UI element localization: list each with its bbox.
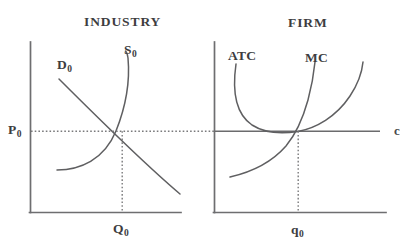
demand-curve-label-subscript: 0 xyxy=(67,64,72,74)
industry-quantity-label: Q0 xyxy=(113,222,129,236)
industry-panel-title: INDUSTRY xyxy=(84,15,161,29)
demand-curve-label-text: D xyxy=(57,57,67,72)
firm-quantity-label-text: q xyxy=(291,222,299,237)
firm-quantity-label-subscript: 0 xyxy=(299,229,304,239)
supply-curve-label-subscript: 0 xyxy=(132,49,137,59)
price-axis-label-subscript: 0 xyxy=(17,129,22,139)
demand-curve-label: D0 xyxy=(57,58,72,72)
economics-diagram-page: INDUSTRY FIRM S0 D0 ATC MC P0 Q0 q0 c xyxy=(0,0,401,249)
industry-quantity-label-subscript: 0 xyxy=(124,228,129,238)
firm-quantity-label: q0 xyxy=(291,223,304,237)
price-axis-label-text: P xyxy=(8,122,17,137)
firm-panel-title: FIRM xyxy=(288,16,328,30)
demand-curve-d0 xyxy=(59,79,180,194)
mc-curve-label: MC xyxy=(305,51,328,65)
price-axis-label: P0 xyxy=(8,123,22,137)
firm-panel-axes xyxy=(214,42,387,213)
supply-curve-label: S0 xyxy=(124,43,137,57)
atc-curve xyxy=(235,62,363,133)
atc-curve-label: ATC xyxy=(228,49,256,63)
industry-panel-axes xyxy=(30,42,182,213)
supply-curve-label-text: S xyxy=(124,42,132,57)
industry-quantity-label-text: Q xyxy=(113,221,124,236)
right-edge-clipped-char: c xyxy=(394,124,401,137)
mc-curve xyxy=(230,62,315,177)
diagram-canvas xyxy=(0,0,401,249)
